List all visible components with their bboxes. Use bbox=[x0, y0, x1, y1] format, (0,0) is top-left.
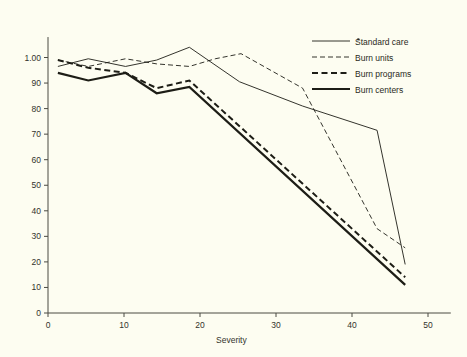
chart-container: 01020304050607080901.0001020304050Severi… bbox=[0, 0, 467, 357]
x-tick-label: 40 bbox=[347, 320, 357, 330]
line-chart: 01020304050607080901.0001020304050Severi… bbox=[0, 0, 467, 357]
x-tick-label: 0 bbox=[46, 320, 51, 330]
y-tick-label: 80 bbox=[32, 104, 42, 114]
y-tick-label: 10 bbox=[32, 282, 42, 292]
y-tick-label: 50 bbox=[32, 180, 42, 190]
y-tick-label: 60 bbox=[32, 155, 42, 165]
x-axis-title: Severity bbox=[216, 335, 247, 345]
series-group bbox=[58, 47, 405, 285]
legend-label-burn-centers: Burn centers bbox=[355, 85, 403, 95]
series-line-standard-care bbox=[58, 47, 405, 264]
x-tick-label: 20 bbox=[195, 320, 205, 330]
series-line-burn-units bbox=[58, 54, 405, 248]
y-tick-label: 20 bbox=[32, 257, 42, 267]
y-tick-label: 0 bbox=[36, 308, 41, 318]
legend-label-standard-care: Standard care bbox=[355, 37, 409, 47]
axes-group: 01020304050607080901.0001020304050Severi… bbox=[24, 37, 450, 345]
x-tick-label: 50 bbox=[423, 320, 433, 330]
y-tick-label: 40 bbox=[32, 206, 42, 216]
series-line-burn-centers bbox=[58, 73, 405, 285]
x-tick-label: 10 bbox=[119, 320, 129, 330]
y-tick-label: 70 bbox=[32, 129, 42, 139]
y-tick-label: 30 bbox=[32, 231, 42, 241]
series-line-burn-programs bbox=[58, 60, 405, 277]
legend-label-burn-programs: Burn programs bbox=[355, 69, 411, 79]
y-tick-label: 90 bbox=[32, 78, 42, 88]
legend-label-burn-units: Burn units bbox=[355, 53, 393, 63]
x-tick-label: 30 bbox=[271, 320, 281, 330]
y-tick-label: 1.00 bbox=[24, 53, 41, 63]
legend-group: Standard careBurn unitsBurn programsBurn… bbox=[312, 37, 411, 95]
